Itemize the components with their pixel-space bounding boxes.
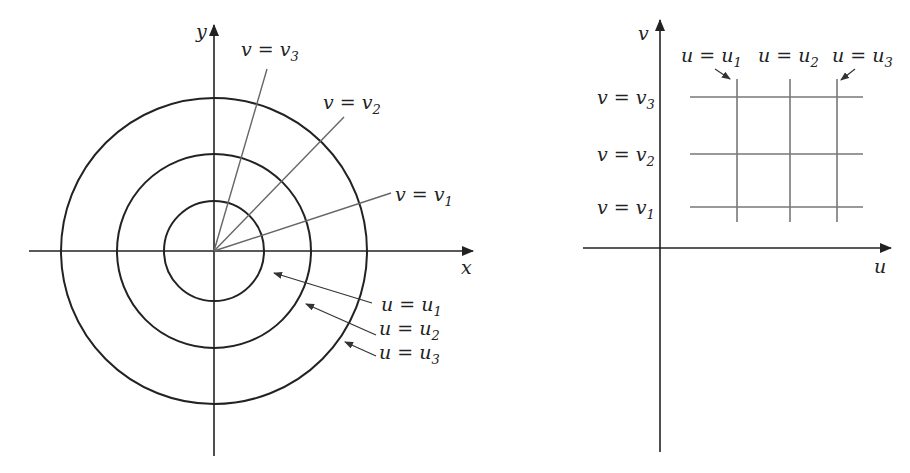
u-axis-label: u — [874, 255, 886, 277]
ray-label-v3: v = v3 — [241, 38, 299, 64]
pointer-arrow-u2 — [306, 304, 376, 335]
v-axis-label: v — [638, 22, 649, 44]
grid-label-u3: u = u3 — [832, 44, 893, 70]
ray-label-v2: v = v2 — [323, 91, 381, 117]
x-axis-label: x — [461, 256, 472, 278]
grid-label-v2: v = v2 — [597, 143, 655, 169]
uv-plane-panel: u v u = u1 u = u2 u = u3 v = v3 v = v2 v… — [583, 20, 893, 452]
ray-label-v1: v = v1 — [395, 183, 453, 209]
xy-plane-panel: x y v = v1 v = v2 v = v3 u = u1 u = u2 u… — [29, 20, 473, 456]
pointer-arrow-u1 — [715, 69, 730, 79]
pointer-arrow-u3 — [841, 69, 855, 80]
polar-coordinate-mapping-diagram: x y v = v1 v = v2 v = v3 u = u1 u = u2 u… — [0, 0, 910, 473]
circle-label-u3: u = u3 — [379, 341, 440, 367]
circle-label-u2: u = u2 — [379, 317, 440, 343]
circle-label-u1: u = u1 — [381, 293, 442, 319]
grid-label-u2: u = u2 — [758, 44, 819, 70]
pointer-arrow-u3 — [345, 342, 376, 356]
grid-label-u1: u = u1 — [681, 44, 742, 70]
pointer-arrow-u1 — [274, 273, 372, 303]
grid-label-v3: v = v3 — [597, 86, 655, 112]
y-axis-label: y — [195, 20, 207, 42]
grid-label-v1: v = v1 — [597, 196, 655, 222]
